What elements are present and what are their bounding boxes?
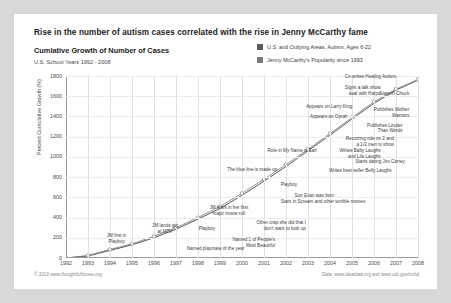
x-axis-tick-label: 2002 — [280, 260, 292, 266]
chart-annotation: Playboy — [281, 182, 297, 188]
y-axis-tick-label: 200 — [22, 234, 62, 240]
y-axis-tick-label: 1000 — [22, 153, 62, 159]
x-axis-tick-label: 1998 — [192, 260, 204, 266]
chart-annotation: Recurring role on 2 and a 1/2 men tv sho… — [346, 136, 394, 148]
gridline-vertical — [88, 76, 89, 258]
chart-annotation: JM first in Playboy — [107, 233, 127, 245]
chart-annotation: Appears on Larry King — [306, 104, 352, 110]
chart-annotation: JM lands gig at MTV — [152, 223, 178, 235]
plot-area: Co-writes Healing AutismSigns a talk sho… — [66, 76, 418, 258]
gridline-vertical — [418, 76, 419, 258]
chart-annotation: The blue line is made up — [227, 167, 277, 173]
chart-subtitle: Cumlative Growth of Number of Cases — [34, 46, 169, 55]
chart-annotation: Signs a talk show deal with Harpo — [345, 85, 381, 97]
x-axis-tick-label: 1995 — [126, 260, 138, 266]
chart-annotation: Other crap she did that I don't want to … — [257, 220, 306, 232]
gridline-vertical — [132, 76, 133, 258]
x-axis-tick-label: 2003 — [302, 260, 314, 266]
y-axis-tick-label: 0 — [22, 255, 62, 261]
gridline-vertical — [220, 76, 221, 258]
legend-swatch-autism — [257, 44, 263, 50]
y-axis-tick-label: 400 — [22, 214, 62, 220]
x-axis-tick-label: 1992 — [60, 260, 72, 266]
chart-annotation: JM stars in her first major movie roll — [209, 205, 248, 217]
chart-annotation: Publishes Louder Than Words — [367, 123, 403, 135]
x-axis-tick-label: 1996 — [148, 260, 160, 266]
x-axis-ticks: 1992199319941995199619971998199920002001… — [66, 260, 418, 272]
gridline-vertical — [110, 76, 111, 258]
y-axis-tick-label: 1200 — [22, 133, 62, 139]
x-axis-tick-label: 1999 — [214, 260, 226, 266]
chart-annotation: Co-writes Healing Autism — [345, 74, 396, 80]
y-axis-tick-label: 600 — [22, 194, 62, 200]
chart-annotation: Writes best seller Belly Laughs — [329, 168, 392, 174]
legend-item-mccarthy: Jenny McCarthy's Popularity since 1993 — [257, 57, 363, 63]
gridline-vertical — [352, 76, 353, 258]
x-axis-tick-label: 2005 — [346, 260, 358, 266]
x-axis-tick-label: 1997 — [170, 260, 182, 266]
y-axis-tick-label: 800 — [22, 174, 62, 180]
legend-label-autism: U.S. and Outlying Areas, Autism, Ages 6-… — [267, 44, 371, 50]
x-axis-tick-label: 2004 — [324, 260, 336, 266]
gridline-vertical — [396, 76, 397, 258]
x-axis-tick-label: 2006 — [368, 260, 380, 266]
chart-annotation: Son Evan was born — [295, 193, 335, 199]
y-axis-label: Percent Cumulative Growth (%) — [36, 42, 42, 192]
chart-annotation: Stars in Chuck — [379, 91, 409, 97]
x-axis-tick-label: 2001 — [258, 260, 270, 266]
chart-annotation: Role in My Name is Earl — [268, 148, 317, 154]
y-axis-tick-label: 1800 — [22, 73, 62, 79]
footer-source: Data: www.ideadata.org and www.cdc.gov/n… — [322, 272, 419, 277]
chart-annotation: Stars in Scream and other terrible movie… — [281, 199, 366, 205]
gridline-vertical — [374, 76, 375, 258]
legend-item-autism: U.S. and Outlying Areas, Autism, Ages 6-… — [257, 44, 371, 50]
chart-annotation: Starts dating Jim Carrey — [356, 159, 405, 165]
y-axis-line — [66, 76, 67, 258]
x-axis-tick-label: 2007 — [390, 260, 402, 266]
legend-label-mccarthy: Jenny McCarthy's Popularity since 1993 — [267, 57, 363, 63]
chart-annotation: Appears on Oprah — [310, 114, 348, 120]
x-axis-tick-label: 2000 — [236, 260, 248, 266]
gridline-vertical — [330, 76, 331, 258]
legend-swatch-mccarthy — [257, 57, 263, 63]
x-axis-tick-label: 1994 — [104, 260, 116, 266]
chart-annotation: Playboy — [199, 226, 215, 232]
chart-annotation: Publishes Mother Warriors — [374, 107, 410, 119]
page-title: Rise in the number of autism cases corre… — [34, 28, 368, 37]
chart-card: Rise in the number of autism cases corre… — [14, 14, 437, 289]
x-axis-tick-label: 1993 — [82, 260, 94, 266]
chart-annotation: Writes Baby Laughs and Life Laughs — [340, 148, 381, 160]
gridline-vertical — [308, 76, 309, 258]
y-axis-tick-label: 1600 — [22, 93, 62, 99]
chart-subsubtitle: U.S. School Years 1992 - 2008 — [34, 59, 111, 65]
chart-annotation: Named playmate of the year — [187, 246, 245, 252]
x-axis-tick-label: 2008 — [412, 260, 424, 266]
footer-copyright: © 2013 www.thoughtfulhouse.org — [34, 272, 102, 277]
y-axis-tick-label: 1400 — [22, 113, 62, 119]
